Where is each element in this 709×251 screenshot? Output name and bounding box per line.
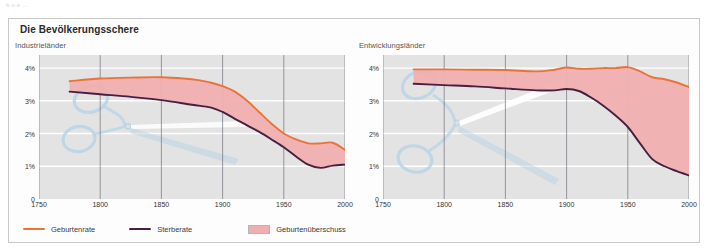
x-tick-label: 1750 bbox=[375, 201, 391, 208]
chart-panel: Die Bevölkerungsschere Industrieländer 0… bbox=[8, 18, 700, 243]
chart-industrielaender: Industrieländer 01%2%3%4% 17501800185019… bbox=[15, 41, 353, 219]
chart-legend: GeburtenrateSterberateGeburtenüberschuss bbox=[23, 222, 380, 236]
legend-line-swatch bbox=[129, 228, 151, 230]
charts-container: Industrieländer 01%2%3%4% 17501800185019… bbox=[9, 41, 701, 219]
page-title: Die Bevölkerungsschere bbox=[20, 24, 139, 35]
x-tick-label: 2000 bbox=[337, 201, 353, 208]
y-tick-label: 1% bbox=[25, 163, 35, 170]
infographic-root: b u e ... Die Bevölkerungsschere Industr… bbox=[0, 0, 709, 251]
chart-subtitle-right: Entwicklungsländer bbox=[359, 41, 425, 50]
x-axis-labels-left: 175018001850190019502000 bbox=[39, 201, 345, 213]
legend-line-swatch bbox=[23, 228, 45, 230]
x-tick-label: 1800 bbox=[92, 201, 108, 208]
chart-entwicklungslaender: Entwicklungsländer 01%2%3%4% 17501800185… bbox=[359, 41, 697, 219]
x-tick-label: 2000 bbox=[681, 201, 697, 208]
x-tick-label: 1900 bbox=[559, 201, 575, 208]
y-axis-labels-left: 01%2%3%4% bbox=[15, 55, 37, 199]
legend-area-swatch bbox=[248, 225, 270, 234]
y-tick-label: 4% bbox=[25, 65, 35, 72]
x-axis-labels-right: 175018001850190019502000 bbox=[383, 201, 689, 213]
y-tick-label: 2% bbox=[369, 130, 379, 137]
y-tick-label: 3% bbox=[25, 97, 35, 104]
legend-item: Geburtenüberschuss bbox=[248, 225, 346, 234]
x-tick-label: 1750 bbox=[31, 201, 47, 208]
x-tick-label: 1950 bbox=[620, 201, 636, 208]
plot-canvas-right bbox=[383, 55, 689, 199]
top-caption: b u e ... bbox=[6, 1, 28, 9]
y-axis-labels-right: 01%2%3%4% bbox=[359, 55, 381, 199]
chart-subtitle-left: Industrieländer bbox=[15, 41, 66, 50]
y-tick-label: 2% bbox=[25, 130, 35, 137]
legend-label: Geburtenrate bbox=[51, 225, 95, 234]
y-tick-label: 4% bbox=[369, 65, 379, 72]
plot-canvas-left bbox=[39, 55, 345, 199]
x-tick-label: 1950 bbox=[276, 201, 292, 208]
plot-area-left bbox=[39, 55, 345, 199]
x-tick-label: 1900 bbox=[215, 201, 231, 208]
x-tick-label: 1800 bbox=[436, 201, 452, 208]
x-tick-label: 1850 bbox=[498, 201, 514, 208]
x-tick-label: 1850 bbox=[154, 201, 170, 208]
y-tick-label: 3% bbox=[369, 97, 379, 104]
legend-label: Geburtenüberschuss bbox=[276, 225, 346, 234]
legend-item: Sterberate bbox=[129, 225, 192, 234]
plot-area-right bbox=[383, 55, 689, 199]
legend-label: Sterberate bbox=[157, 225, 192, 234]
y-tick-label: 1% bbox=[369, 163, 379, 170]
legend-item: Geburtenrate bbox=[23, 225, 95, 234]
